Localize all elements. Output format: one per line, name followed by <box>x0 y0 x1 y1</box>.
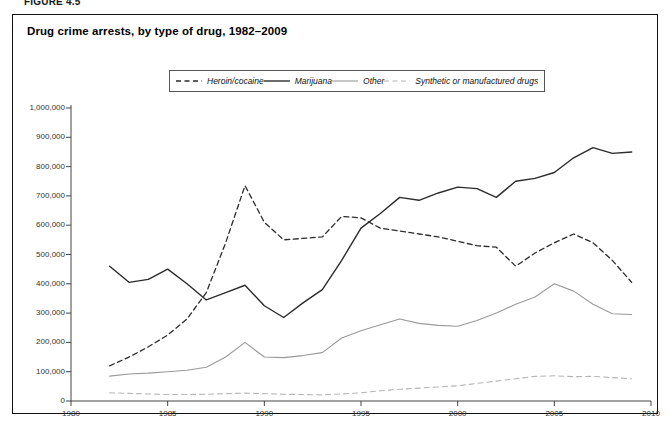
series-line <box>110 186 632 366</box>
chart-panel: Drug crime arrests, by type of drug, 198… <box>12 14 658 414</box>
chart-svg <box>13 15 659 415</box>
plot-area: 0100,000200,000300,000400,000500,000600,… <box>13 15 659 415</box>
series-line <box>110 284 632 376</box>
y-axis-tick-label: 600,000 <box>13 220 65 229</box>
x-axis-tick-label: 1985 <box>148 409 188 418</box>
y-axis-tick-label: 500,000 <box>13 250 65 259</box>
figure-container: FIGURE 4.5 Drug crime arrests, by type o… <box>0 0 670 424</box>
y-axis-tick-label: 900,000 <box>13 132 65 141</box>
x-axis-tick-label: 2005 <box>534 409 574 418</box>
y-axis-tick-label: 100,000 <box>13 367 65 376</box>
y-axis-tick-label: 300,000 <box>13 308 65 317</box>
y-axis-tick-label: 400,000 <box>13 279 65 288</box>
figure-number-label: FIGURE 4.5 <box>24 0 80 7</box>
y-axis-tick-label: 0 <box>13 396 65 405</box>
x-axis-tick-label: 1980 <box>51 409 91 418</box>
y-axis-tick-label: 200,000 <box>13 337 65 346</box>
x-axis-tick-label: 1990 <box>244 409 284 418</box>
x-axis-tick-label: 2000 <box>438 409 478 418</box>
y-axis-tick-label: 700,000 <box>13 191 65 200</box>
x-axis-tick-label: 1995 <box>341 409 381 418</box>
y-axis-tick-label: 800,000 <box>13 162 65 171</box>
series-line <box>110 376 632 395</box>
y-axis-tick-label: 1,000,000 <box>13 103 65 112</box>
series-line <box>110 148 632 318</box>
x-axis-tick-label: 2010 <box>631 409 670 418</box>
